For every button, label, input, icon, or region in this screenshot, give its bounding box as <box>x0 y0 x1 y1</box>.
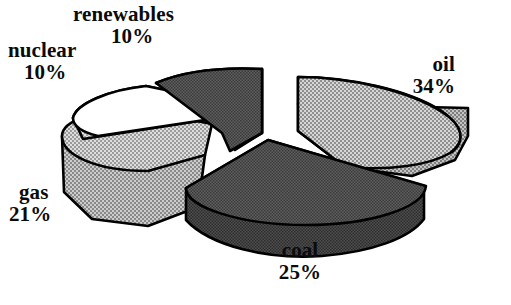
pie-label-gas-name: gas <box>19 182 51 203</box>
pie-label-oil: oil 34% <box>413 54 455 98</box>
pie-label-nuclear-value: 10% <box>24 62 76 83</box>
pie-label-renewables-name: renewables <box>73 4 174 25</box>
pie-chart: renewables 10% nuclear 10% oil 34% gas 2… <box>0 0 511 305</box>
pie-label-gas-value: 21% <box>9 204 51 225</box>
pie-label-oil-value: 34% <box>413 76 455 97</box>
pie-label-coal: coal 25% <box>279 240 321 284</box>
pie-label-renewables: renewables 10% <box>73 4 174 48</box>
pie-label-nuclear: nuclear 10% <box>8 40 76 84</box>
pie-label-oil-name: oil <box>413 54 455 75</box>
pie-label-nuclear-name: nuclear <box>8 40 76 61</box>
pie-label-coal-value: 25% <box>279 262 321 283</box>
pie-label-gas: gas 21% <box>9 182 51 226</box>
pie-label-renewables-value: 10% <box>111 26 174 47</box>
pie-label-coal-name: coal <box>279 240 321 261</box>
